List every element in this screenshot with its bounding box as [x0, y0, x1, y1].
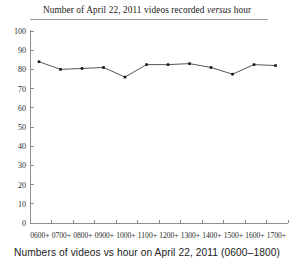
data-point-marker: [124, 76, 127, 79]
y-tick-label: 70: [18, 85, 26, 94]
plot-area: 0102030405060708090100: [0, 26, 294, 230]
chart-figure: Number of April 22, 2011 videos recorded…: [0, 0, 294, 273]
data-series: [38, 60, 277, 78]
x-tick-label: 1300+: [181, 231, 200, 240]
y-tick-label: 100: [14, 27, 26, 36]
x-tick-label: 1100+: [138, 231, 157, 240]
y-tick-label: 50: [18, 123, 26, 132]
data-point-marker: [38, 60, 41, 63]
data-point-marker: [102, 66, 105, 69]
x-tick-label: 1500+: [224, 231, 243, 240]
line-chart-svg: 0102030405060708090100: [0, 26, 294, 230]
x-tick-label: 1000+: [116, 231, 135, 240]
x-tick-label: 1700+: [267, 231, 286, 240]
y-tick-label: 0: [22, 219, 26, 228]
title-prefix: Number of April 22, 2011 videos recorded: [43, 5, 207, 15]
x-tick-label: 1600+: [245, 231, 264, 240]
data-point-marker: [210, 66, 213, 69]
data-point-marker: [145, 63, 148, 66]
y-tick-label: 90: [18, 46, 26, 55]
series-polyline: [39, 62, 276, 77]
data-point-marker: [231, 73, 234, 76]
figure-caption: Numbers of videos vs hour on April 22, 2…: [0, 247, 294, 258]
y-tick-label: 30: [18, 161, 26, 170]
y-tick-label: 20: [18, 181, 26, 190]
x-tick-label: 1200+: [159, 231, 178, 240]
data-point-marker: [188, 62, 191, 65]
y-tick-label: 60: [18, 104, 26, 113]
data-point-marker: [274, 64, 277, 67]
data-point-marker: [253, 63, 256, 66]
data-point-marker: [81, 67, 84, 70]
x-tick-label: 0800+: [73, 231, 92, 240]
x-tick-label: 0700+: [52, 231, 71, 240]
chart-title-block: Number of April 22, 2011 videos recorded…: [0, 4, 294, 16]
page-title: Number of April 22, 2011 videos recorded…: [0, 4, 294, 16]
x-tick-label: 0600+: [30, 231, 49, 240]
y-tick-label: 10: [18, 200, 26, 209]
y-axis: 0102030405060708090100: [14, 27, 34, 228]
x-tick-label-row: 0600+0700+0800+0900+1000+1100+1200+1300+…: [0, 231, 294, 243]
y-tick-label: 80: [18, 65, 26, 74]
title-suffix: hour: [231, 5, 251, 15]
data-point-marker: [59, 68, 62, 71]
y-tick-label: 40: [18, 142, 26, 151]
x-tick-label: 1400+: [202, 231, 221, 240]
x-tick-label: 0900+: [95, 231, 114, 240]
x-axis: [30, 220, 288, 224]
title-emphasis: versus: [207, 5, 231, 15]
title-divider: [30, 19, 268, 20]
data-point-marker: [167, 63, 170, 66]
